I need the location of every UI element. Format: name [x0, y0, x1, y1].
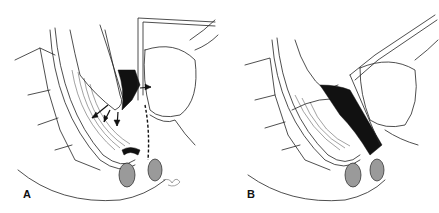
panel-b: B [220, 0, 439, 213]
panel-a: A [0, 0, 219, 213]
illustration-b [220, 0, 439, 213]
panel-label-a: A [23, 188, 31, 200]
arrow-icons [92, 84, 151, 126]
panel-label-b: B [247, 188, 255, 200]
illustration-a [0, 0, 219, 213]
